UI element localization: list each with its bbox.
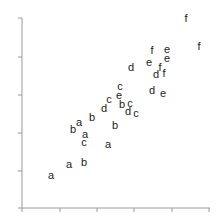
- data-point-c: c: [133, 107, 139, 119]
- data-point-b: b: [89, 111, 95, 123]
- data-point-d: d: [149, 84, 155, 96]
- axes: [18, 18, 210, 212]
- data-point-a: a: [66, 158, 73, 170]
- data-point-c: c: [117, 80, 123, 92]
- data-point-f: f: [150, 44, 154, 56]
- data-point-f: f: [197, 40, 201, 52]
- data-point-a: a: [82, 128, 89, 140]
- data-point-a: a: [48, 169, 55, 181]
- data-point-f: f: [184, 12, 188, 24]
- data-point-c: c: [106, 93, 112, 105]
- data-point-d: d: [128, 61, 134, 73]
- data-point-a: a: [105, 138, 112, 150]
- data-point-b: b: [81, 156, 87, 168]
- data-point-b: b: [112, 119, 118, 131]
- data-point-f: f: [162, 67, 166, 79]
- data-point-e: e: [164, 52, 170, 64]
- scatter-plot: aabcabababdcbecdccdefeedffdeff: [0, 0, 223, 224]
- data-points: aabcabababdcbecdccdefeedffdeff: [48, 12, 202, 181]
- data-point-e: e: [146, 56, 152, 68]
- data-point-a: a: [76, 116, 83, 128]
- data-point-e: e: [160, 87, 166, 99]
